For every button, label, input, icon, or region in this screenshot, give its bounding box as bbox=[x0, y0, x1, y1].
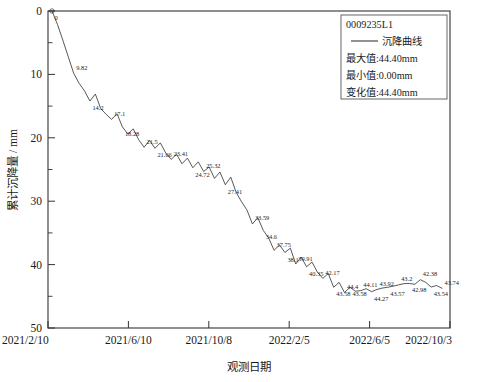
x-tick-label: 2022/2/5 bbox=[269, 334, 310, 346]
y-axis: 01020304050 bbox=[31, 5, 56, 334]
point-label: 0 bbox=[55, 14, 58, 21]
point-label: 9.82 bbox=[76, 64, 87, 71]
point-label: 42.98 bbox=[412, 286, 426, 293]
point-label: 25.32 bbox=[206, 162, 220, 169]
point-label: 39.91 bbox=[298, 255, 312, 262]
chart-svg: 01020304050 2021/2/102021/6/102021/10/82… bbox=[0, 0, 482, 382]
y-tick-label: 10 bbox=[31, 68, 43, 80]
legend-min-value: 最小值:0.00mm bbox=[346, 69, 413, 81]
x-tick-label: 2021/2/10 bbox=[2, 334, 49, 346]
point-label: 43.54 bbox=[434, 290, 449, 297]
point-label: 43.57 bbox=[390, 290, 405, 297]
point-label: 44.11 bbox=[363, 281, 377, 288]
point-label: 14.2 bbox=[92, 104, 103, 111]
x-tick-label: 2021/6/10 bbox=[105, 334, 152, 346]
legend-max-value: 最大值:44.40mm bbox=[346, 52, 418, 64]
point-label: 43.2 bbox=[401, 275, 412, 282]
point-label: 38.1 bbox=[287, 256, 298, 263]
point-label: 43.74 bbox=[445, 279, 460, 286]
point-label: 44.27 bbox=[374, 295, 389, 302]
legend: 0009235L1 沉降曲线 最大值:44.40mm 最小值:0.00mm 变化… bbox=[341, 15, 447, 99]
point-label: 33.59 bbox=[255, 214, 269, 221]
legend-id: 0009235L1 bbox=[346, 19, 393, 30]
y-tick-label: 0 bbox=[36, 5, 42, 17]
point-label: 43.58 bbox=[352, 290, 366, 297]
point-label: 37.75 bbox=[277, 241, 291, 248]
point-label: 43.92 bbox=[380, 280, 394, 287]
x-tick-label: 2022/6/5 bbox=[349, 334, 390, 346]
x-tick-label: 2021/10/8 bbox=[185, 334, 232, 346]
point-label: 18.28 bbox=[125, 130, 139, 137]
x-axis-title: 观测日期 bbox=[227, 361, 271, 373]
point-label: 42.38 bbox=[423, 270, 437, 277]
point-label: 34.6 bbox=[266, 233, 277, 240]
point-label: 17.1 bbox=[114, 110, 125, 117]
x-axis: 2021/2/102021/6/102021/10/82022/2/52022/… bbox=[2, 321, 452, 346]
point-label: 44.4 bbox=[347, 283, 359, 290]
legend-change-value: 变化值:44.40mm bbox=[346, 86, 418, 98]
x-tick-label: 2022/10/3 bbox=[405, 334, 452, 346]
point-label: 42.17 bbox=[325, 269, 340, 276]
settlement-curve-chart: 01020304050 2021/2/102021/6/102021/10/82… bbox=[0, 0, 482, 382]
y-tick-label: 30 bbox=[31, 195, 43, 207]
point-label: 24.72 bbox=[195, 171, 209, 178]
y-tick-label: 20 bbox=[31, 132, 43, 144]
point-label: 40.35 bbox=[309, 270, 323, 277]
point-label: 21.66 bbox=[157, 151, 171, 158]
point-label: 27.41 bbox=[228, 188, 242, 195]
point-label: 23.41 bbox=[174, 150, 188, 157]
y-tick-label: 50 bbox=[31, 322, 43, 334]
legend-series-label: 沉降曲线 bbox=[382, 35, 422, 47]
point-label: 43.58 bbox=[336, 290, 350, 297]
y-axis-title: 累计沉降量 / mm bbox=[6, 129, 19, 211]
y-tick-label: 40 bbox=[31, 259, 43, 271]
point-label: 21.5 bbox=[147, 138, 158, 145]
